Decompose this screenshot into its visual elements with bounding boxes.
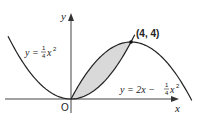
label-parabola-down: y = 2x − 1 4 x 2 [119, 82, 180, 96]
svg-text:4: 4 [165, 90, 169, 96]
intersection-label: (4, 4) [136, 28, 159, 39]
svg-text:y = 2x −: y = 2x − [119, 84, 155, 95]
y-axis-label: y [60, 10, 66, 22]
svg-text:x: x [46, 47, 52, 58]
svg-text:2: 2 [176, 83, 180, 89]
graph: y x O (4, 4) y = 1 4 x 2 y = 2x − 1 4 x … [0, 0, 197, 114]
label-parabola-up: y = 1 4 x 2 [24, 45, 57, 59]
svg-text:1: 1 [42, 45, 46, 51]
origin-label: O [61, 102, 69, 113]
intersection-point [129, 40, 133, 44]
svg-text:y =: y = [24, 47, 39, 58]
svg-text:1: 1 [165, 82, 169, 88]
svg-text:x: x [169, 84, 175, 95]
svg-text:2: 2 [53, 46, 57, 52]
svg-text:4: 4 [42, 53, 46, 59]
y-axis-arrow-icon [68, 13, 74, 21]
x-axis-label: x [174, 102, 180, 114]
